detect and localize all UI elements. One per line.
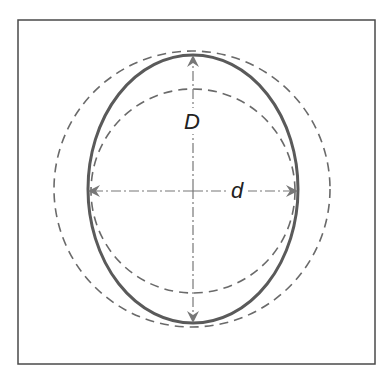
minor-axis-label: d [231, 178, 244, 203]
major-axis-label: D [184, 109, 200, 134]
outer-dashed-circle [54, 51, 330, 327]
frame [18, 20, 375, 364]
ovality-diagram: D d [0, 0, 384, 379]
